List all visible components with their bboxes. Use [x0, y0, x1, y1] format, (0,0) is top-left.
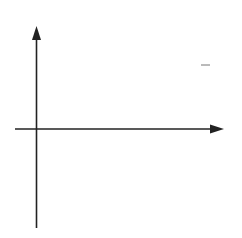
x-axis-arrow-icon — [210, 125, 224, 134]
y-axis-arrow-icon — [32, 26, 41, 40]
chart-svg — [0, 0, 242, 238]
